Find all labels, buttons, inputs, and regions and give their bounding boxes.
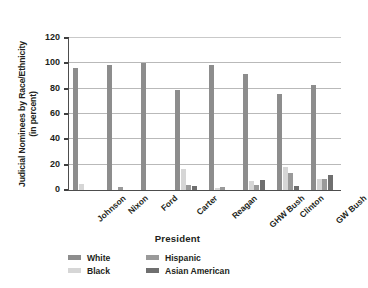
bar: [322, 179, 327, 190]
y-axis-tick-label: 120: [22, 32, 60, 42]
legend-swatch-white: [68, 255, 81, 260]
bar: [175, 90, 180, 190]
bar: [249, 181, 254, 190]
plot-area: [68, 38, 341, 191]
bar: [260, 180, 265, 190]
y-axis-tick-label: 40: [22, 133, 60, 143]
bar: [220, 187, 225, 190]
bar: [73, 68, 78, 190]
legend-label-black: Black: [87, 266, 110, 276]
legend-label-hispanic: Hispanic: [165, 253, 201, 263]
bar: [243, 74, 248, 190]
x-axis-tick-label: Nixon: [126, 193, 150, 216]
bar: [79, 184, 84, 190]
y-axis-tick-label: 60: [22, 108, 60, 118]
bar: [141, 63, 146, 190]
legend-row: White Hispanic: [68, 251, 298, 264]
bar: [317, 179, 322, 190]
bar: [328, 175, 333, 190]
bar: [283, 167, 288, 190]
legend-item-black: Black: [68, 266, 146, 276]
legend-swatch-asian-american: [146, 268, 159, 273]
bar: [209, 65, 214, 190]
bar-group: [137, 38, 171, 190]
bar: [107, 65, 112, 190]
bar: [288, 173, 293, 190]
legend-item-asian-american: Asian American: [146, 266, 230, 276]
y-axis-tick-label: 100: [22, 57, 60, 67]
legend-row: Black Asian American: [68, 264, 298, 277]
chart-legend: White Hispanic Black Asian American: [68, 251, 298, 277]
bar-group: [171, 38, 205, 190]
x-axis-tick-label: Carter: [194, 193, 219, 217]
bar: [186, 185, 191, 190]
y-axis-tick-label: 0: [22, 184, 60, 194]
bar-group: [239, 38, 273, 190]
bar: [192, 186, 197, 190]
bar: [277, 94, 282, 190]
x-axis-tick-label: Reagan: [230, 193, 259, 221]
x-axis-tick-label: GW Bush: [334, 193, 368, 226]
legend-item-hispanic: Hispanic: [146, 253, 201, 263]
bar-group: [273, 38, 307, 190]
bar: [118, 187, 123, 190]
bar-group: [307, 38, 341, 190]
bar-group: [69, 38, 103, 190]
legend-swatch-black: [68, 268, 81, 273]
bar-group: [103, 38, 137, 190]
bar-group: [205, 38, 239, 190]
bar: [254, 185, 259, 190]
x-axis-tick-label: Ford: [159, 193, 180, 213]
y-axis-tick-label: 20: [22, 159, 60, 169]
legend-label-asian-american: Asian American: [165, 266, 230, 276]
x-axis-tick-label: Johnson: [95, 193, 128, 224]
x-axis-title: President: [0, 233, 355, 244]
y-axis-tick-label: 80: [22, 83, 60, 93]
bar: [311, 85, 316, 190]
bar: [181, 169, 186, 190]
legend-swatch-hispanic: [146, 255, 159, 260]
bar: [215, 188, 220, 190]
legend-label-white: White: [87, 253, 110, 263]
bar: [294, 186, 299, 190]
legend-item-white: White: [68, 253, 146, 263]
